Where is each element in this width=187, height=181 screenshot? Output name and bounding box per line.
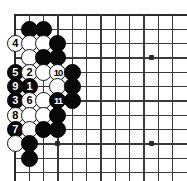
stone-move-number: 7 xyxy=(12,124,18,135)
stone-black xyxy=(49,121,66,138)
stone-move-number: 8 xyxy=(12,110,18,121)
stone-move-number: 2 xyxy=(27,67,33,78)
board-stones: 4521091361187 xyxy=(0,0,187,181)
stone-move-number: 4 xyxy=(12,38,18,49)
stone-black xyxy=(64,92,81,109)
stone-move-number: 11 xyxy=(54,96,62,106)
stone-move-number: 3 xyxy=(12,95,18,106)
stone-move-number: 9 xyxy=(12,81,18,92)
stone-move-number: 5 xyxy=(12,67,18,78)
stone-move-number: 6 xyxy=(27,95,33,106)
stone-black xyxy=(21,150,38,167)
go-board-diagram: 4521091361187 xyxy=(0,0,187,181)
stone-move-number: 10 xyxy=(54,68,63,78)
stone-move-number: 1 xyxy=(27,81,33,92)
